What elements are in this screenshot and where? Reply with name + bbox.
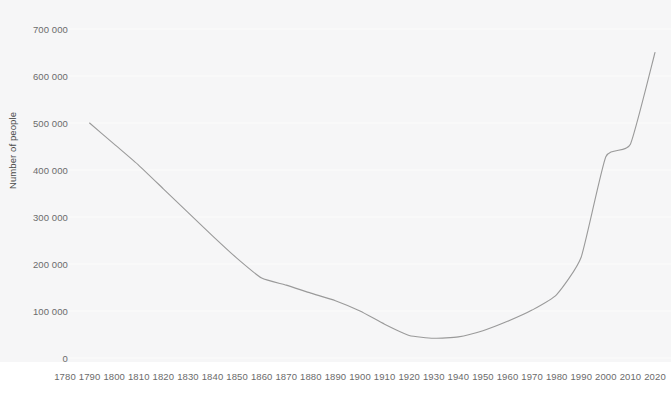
x-axis-tick-label: 1800 [103,371,125,382]
x-axis-tick-label: 1890 [325,371,347,382]
x-axis-tick-label: 2000 [595,371,617,382]
gridlines-group [68,29,671,358]
y-axis-tick-label: 300 000 [6,212,68,223]
y-axis-tick-label: 600 000 [6,71,68,82]
x-axis-tick-label: 1850 [226,371,248,382]
y-axis-title: Number of people [7,91,18,211]
y-axis-tick-label: 500 000 [6,118,68,129]
x-axis-tick-label: 1910 [374,371,396,382]
x-axis-tick-label: 1990 [570,371,592,382]
x-axis-tick-label: 1950 [472,371,494,382]
x-axis-tick-label: 1780 [54,371,76,382]
x-axis-tick-label: 1920 [398,371,420,382]
x-axis-tick-label: 2020 [644,371,666,382]
y-axis-tick-label: 400 000 [6,165,68,176]
x-axis-tick-label: 1880 [300,371,322,382]
x-axis-tick-label: 1870 [275,371,297,382]
x-axis-tick-label: 1810 [128,371,150,382]
series-group [90,53,655,339]
x-axis-tick-label: 1970 [521,371,543,382]
y-axis-tick-label: 0 [6,353,68,364]
x-axis-tick-label: 1940 [448,371,470,382]
x-axis-tick-label: 1930 [423,371,445,382]
x-axis-tick-label: 1820 [153,371,175,382]
x-axis-tick-label: 1860 [251,371,273,382]
x-axis-tick-label: 1840 [202,371,224,382]
x-axis-tick-label: 1980 [546,371,568,382]
y-axis-tick-label: 100 000 [6,306,68,317]
data-line-number-of-people [90,53,655,339]
x-axis-tick-label: 1790 [79,371,101,382]
x-axis-tick-label: 1830 [177,371,199,382]
y-axis-tick-labels: Number of people 0100 000200 000300 0004… [0,0,68,404]
x-axis-tick-label: 2010 [620,371,642,382]
y-axis-tick-label: 700 000 [6,24,68,35]
plot-canvas [0,0,671,404]
y-axis-tick-label: 200 000 [6,259,68,270]
line-chart: Number of people 0100 000200 000300 0004… [0,0,671,404]
x-axis-tick-label: 1960 [497,371,519,382]
x-axis-tick-label: 1900 [349,371,371,382]
